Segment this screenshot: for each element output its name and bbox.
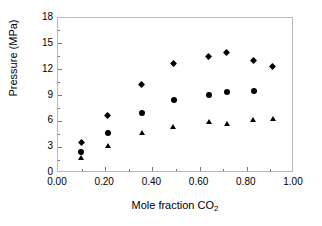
data-point-triangle [206,119,212,124]
data-point-circle [139,110,145,116]
data-point-diamond [170,60,177,67]
x-axis-title-main: Mole fraction CO [132,199,215,211]
y-tick-label: 3 [31,141,53,151]
y-axis-title: Pressure (MPa) [4,3,22,113]
data-point-triangle [170,124,176,129]
y-tick-label: 15 [31,38,53,48]
data-point-triangle [224,121,230,126]
data-point-circle [105,130,111,136]
y-tick-label: 18 [31,12,53,22]
x-tick-label: 0.20 [84,177,124,187]
data-point-circle [171,97,177,103]
y-tick-label: 12 [31,64,53,74]
x-tick-label: 0.60 [179,177,219,187]
x-tick-label: 0.40 [131,177,171,187]
plot-canvas [57,17,293,172]
scatter-chart-figure: Pressure (MPa) 0369121518 0.000.200.400.… [0,0,322,226]
x-axis-tick-labels: 0.000.200.400.600.801.00 [57,177,293,191]
x-tick-label: 0.80 [226,177,266,187]
data-point-circle [206,92,212,98]
data-point-diamond [250,57,257,64]
data-point-diamond [223,49,230,56]
data-point-circle [251,88,257,94]
data-point-diamond [269,63,276,70]
x-tick-label: 1.00 [273,177,313,187]
y-axis-tick-labels: 0369121518 [27,17,53,172]
y-tick-label: 6 [31,115,53,125]
data-point-diamond [138,81,145,88]
x-tick-label: 0.00 [37,177,77,187]
x-axis-title-subscript: 2 [214,204,218,213]
data-point-triangle [105,143,111,148]
data-point-diamond [205,53,212,60]
data-point-diamond [104,112,111,119]
y-tick-label: 9 [31,90,53,100]
data-point-triangle [250,117,256,122]
data-point-triangle [139,130,145,135]
x-axis-title: Mole fraction CO2 [57,199,293,213]
data-point-triangle [78,155,84,160]
data-point-triangle [270,116,276,121]
data-point-circle [224,89,230,95]
data-point-diamond [78,139,85,146]
data-point-circle [78,149,84,155]
